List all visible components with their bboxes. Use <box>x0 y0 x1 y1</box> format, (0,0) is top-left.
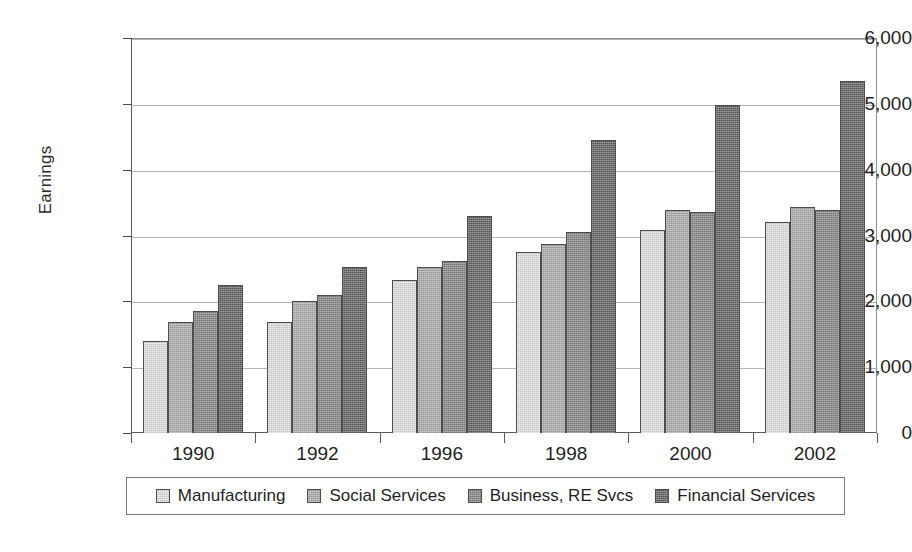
x-axis-tick-mark <box>753 433 754 443</box>
x-axis-tick-label: 1996 <box>372 443 512 465</box>
bar-group <box>753 38 877 433</box>
x-axis-tick-mark <box>504 433 505 443</box>
bar <box>765 222 790 433</box>
bar-group <box>131 38 255 433</box>
x-axis-tick-mark <box>131 433 132 443</box>
bar <box>715 105 740 433</box>
bar <box>566 232 591 433</box>
legend-swatch-icon <box>655 489 669 503</box>
bar <box>218 285 243 433</box>
legend-swatch-icon <box>307 489 321 503</box>
bar-chart: Earnings 01,0002,0003,0004,0005,0006,000… <box>0 0 912 552</box>
bar-group <box>380 38 504 433</box>
legend-item[interactable]: Financial Services <box>655 486 815 506</box>
x-axis-tick-label: 2002 <box>745 443 885 465</box>
bar <box>267 322 292 433</box>
legend-label: Social Services <box>329 486 445 506</box>
bar <box>591 140 616 433</box>
bar <box>815 210 840 433</box>
bar <box>665 210 690 433</box>
legend-swatch-icon <box>156 489 170 503</box>
legend-label: Business, RE Svcs <box>490 486 634 506</box>
x-axis-tick-label: 1992 <box>248 443 388 465</box>
bar-group <box>628 38 752 433</box>
legend-swatch-icon <box>468 489 482 503</box>
x-axis-tick-mark <box>628 433 629 443</box>
bar <box>417 267 442 433</box>
legend-item[interactable]: Business, RE Svcs <box>468 486 634 506</box>
x-axis-tick-mark <box>380 433 381 443</box>
bar-group <box>504 38 628 433</box>
x-axis-tick-label: 2000 <box>621 443 761 465</box>
bar <box>516 252 541 433</box>
bar <box>640 230 665 433</box>
x-axis-tick-label: 1990 <box>123 443 263 465</box>
bar <box>143 341 168 433</box>
chart-legend: ManufacturingSocial ServicesBusiness, RE… <box>126 477 845 515</box>
bar <box>193 311 218 433</box>
bar <box>690 212 715 433</box>
x-axis-tick-mark <box>255 433 256 443</box>
bar <box>442 261 467 433</box>
bar <box>292 301 317 433</box>
x-axis-tick-mark <box>877 433 878 443</box>
bar <box>541 244 566 433</box>
bar-group <box>255 38 379 433</box>
bar <box>168 322 193 433</box>
bar <box>790 207 815 433</box>
y-axis-title: Earnings <box>36 100 56 260</box>
legend-item[interactable]: Manufacturing <box>156 486 286 506</box>
bar <box>392 280 417 433</box>
legend-label: Financial Services <box>677 486 815 506</box>
bar <box>840 81 865 433</box>
bar <box>342 267 367 433</box>
bar <box>467 216 492 433</box>
legend-label: Manufacturing <box>178 486 286 506</box>
bar <box>317 295 342 433</box>
x-axis-tick-label: 1998 <box>496 443 636 465</box>
legend-item[interactable]: Social Services <box>307 486 445 506</box>
bar-groups <box>131 38 877 433</box>
